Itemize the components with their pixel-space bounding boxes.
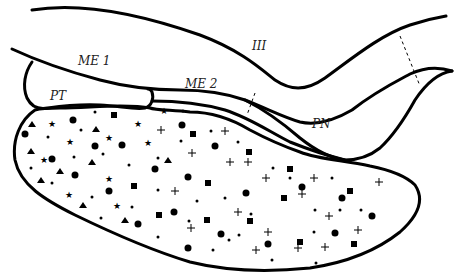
svg-text:★: ★: [66, 137, 74, 147]
label-me1: ME 1: [77, 54, 111, 68]
svg-text:★: ★: [65, 190, 73, 200]
pt-lobe: [25, 62, 153, 109]
svg-text:★: ★: [113, 201, 121, 211]
svg-text:★: ★: [144, 138, 152, 148]
label-pt: PT: [49, 89, 67, 103]
pn-boundary: [245, 71, 452, 160]
iii-upper-boundary: [32, 8, 446, 88]
svg-text:★: ★: [160, 106, 168, 116]
svg-text:★: ★: [40, 155, 48, 165]
svg-text:★: ★: [48, 119, 56, 129]
label-pn: PN: [311, 117, 331, 131]
svg-text:★: ★: [134, 119, 142, 129]
label-iii: III: [251, 39, 266, 53]
svg-text:★: ★: [105, 133, 113, 143]
pd-lobe: [14, 106, 419, 270]
label-me2: ME 2: [184, 77, 218, 91]
svg-text:★: ★: [105, 174, 113, 184]
pituitary-diagram: ME 1 III ME 2 PT PN: [0, 0, 459, 276]
